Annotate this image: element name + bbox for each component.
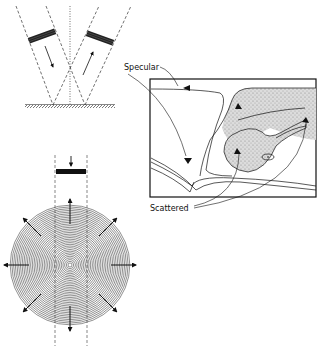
specular-label: Specular — [124, 63, 160, 72]
target-ring — [49, 244, 90, 285]
target-ring — [68, 263, 72, 267]
scattered-reflection-panel — [4, 155, 136, 346]
small-structure-dot — [267, 156, 269, 158]
target-ring — [34, 229, 106, 301]
target-ring — [44, 239, 96, 291]
receiving-transducer — [86, 30, 114, 45]
target-ring — [61, 256, 79, 274]
incident-beam-edge — [16, 6, 53, 105]
incident-beam-edge — [46, 6, 85, 105]
target-ring — [63, 258, 77, 272]
target-ring — [32, 227, 107, 302]
scattered-label: Scattered — [150, 204, 189, 213]
target-ring — [51, 246, 89, 284]
reflected-arrow-icon — [83, 52, 93, 75]
target-ring — [29, 224, 111, 306]
specular-reflection-panel — [16, 6, 131, 108]
diagram-canvas: Specular Scattered — [0, 0, 319, 346]
transmitting-transducer — [28, 28, 56, 43]
incident-arrow-icon — [45, 46, 53, 67]
target-ring — [54, 249, 85, 280]
target-ring — [56, 251, 84, 279]
anatomy-scan-panel: Specular Scattered — [124, 63, 316, 213]
target-ring — [66, 261, 73, 268]
transducer — [56, 169, 86, 174]
ground-hatching — [25, 105, 115, 108]
target-ring — [39, 234, 101, 296]
scatter-arrows — [4, 199, 136, 331]
target-ring — [37, 232, 102, 297]
